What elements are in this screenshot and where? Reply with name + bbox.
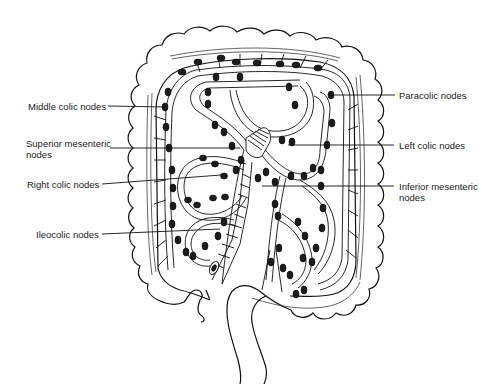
label-ileocolic-nodes: Ileocolic nodes [36,229,99,240]
label-left-colic-nodes: Left colic nodes [399,140,465,151]
label-right-colic-nodes: Right colic nodes [27,179,99,190]
mesenteric-vessels [154,54,358,292]
leader-right-colic [102,175,221,184]
leader-lines [102,95,395,234]
label-superior-mesenteric-nodes: Superior mesenteric nodes [26,138,111,160]
leader-ileocolic [102,229,220,234]
colon-outline [128,26,384,384]
label-middle-colic-nodes: Middle colic nodes [28,101,106,112]
leader-middle-colic [108,106,167,107]
label-inferior-mesenteric-nodes: Inferior mesenteric nodes [399,181,491,203]
label-paracolic-nodes: Paracolic nodes [399,90,467,101]
